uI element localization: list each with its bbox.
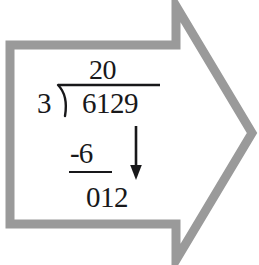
figure-canvas: 20 3 6129 -6 012 bbox=[0, 0, 259, 265]
dividend-value: 6129 bbox=[82, 89, 138, 118]
quotient-value: 20 bbox=[89, 56, 116, 84]
divisor-value: 3 bbox=[37, 89, 52, 118]
subtraction-rule bbox=[69, 171, 112, 173]
subtrahend-value: -6 bbox=[70, 139, 92, 168]
long-division-problem: 20 3 6129 -6 012 bbox=[0, 0, 259, 265]
down-arrow-icon bbox=[126, 124, 146, 182]
partial-remainder-value: 012 bbox=[86, 183, 128, 212]
